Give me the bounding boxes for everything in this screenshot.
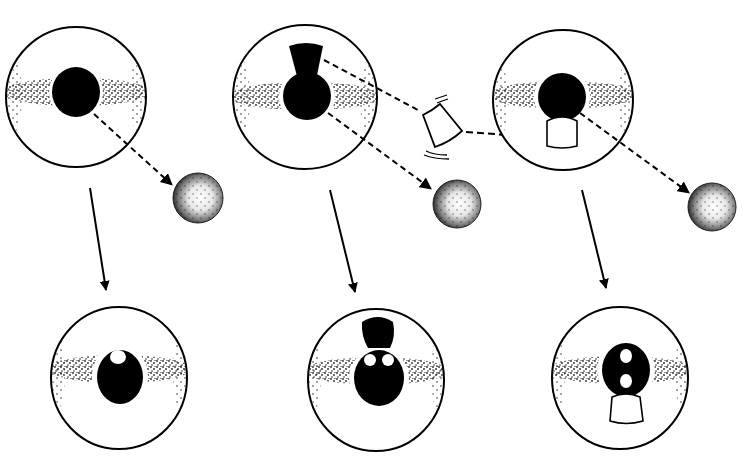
right-bottom-sphere — [547, 307, 693, 449]
diagram-svg — [0, 0, 749, 458]
right-top-sphere — [488, 30, 638, 170]
diagram-canvas — [0, 0, 749, 458]
middle-bottom-sphere — [303, 309, 449, 451]
vacancy — [110, 350, 126, 364]
ejected-fragment — [423, 95, 462, 159]
core — [52, 67, 100, 117]
left-top-sphere — [2, 27, 150, 167]
transition-arrow — [90, 188, 106, 290]
left-bottom-sphere — [47, 307, 191, 449]
transition-arrow — [582, 190, 606, 288]
middle-top-sphere — [229, 25, 381, 169]
transition-arrow — [330, 190, 355, 292]
captured-fragment — [547, 117, 577, 148]
